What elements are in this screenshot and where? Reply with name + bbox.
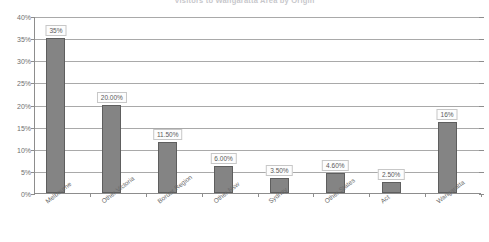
x-axis-category-label: Act bbox=[379, 193, 391, 204]
x-tick-mark bbox=[90, 194, 91, 197]
bar-value-label: 3.50% bbox=[266, 165, 292, 176]
bar-value-label: 16% bbox=[437, 109, 458, 120]
y-tick-mark-right bbox=[479, 83, 484, 84]
bar-chart: Visitors to Wangaratta Area by Origin 35… bbox=[0, 0, 489, 242]
x-tick-mark bbox=[425, 194, 426, 197]
y-axis-tick-label: 25% bbox=[1, 80, 31, 87]
gridline bbox=[34, 128, 481, 129]
bar-value-label: 6.00% bbox=[210, 153, 236, 164]
y-tick-mark-right bbox=[479, 61, 484, 62]
gridline bbox=[34, 83, 481, 84]
gridline bbox=[34, 106, 481, 107]
bar bbox=[102, 105, 121, 194]
y-tick-mark bbox=[31, 61, 35, 62]
y-axis-tick-label: 10% bbox=[1, 146, 31, 153]
x-tick-mark bbox=[481, 194, 482, 197]
y-tick-mark-right bbox=[479, 106, 484, 107]
bar-value-label: 4.60% bbox=[322, 160, 348, 171]
y-tick-mark bbox=[31, 194, 35, 195]
y-tick-mark-right bbox=[479, 39, 484, 40]
y-axis-tick-label: 0% bbox=[1, 191, 31, 198]
y-axis-tick-label: 35% bbox=[1, 36, 31, 43]
chart-title: Visitors to Wangaratta Area by Origin bbox=[0, 0, 489, 6]
y-tick-mark bbox=[31, 128, 35, 129]
x-tick-mark bbox=[313, 194, 314, 197]
bar-value-label: 20.00% bbox=[97, 92, 127, 103]
bar-value-label: 35% bbox=[45, 25, 66, 36]
y-tick-mark-right bbox=[479, 150, 484, 151]
y-axis-tick-label: 30% bbox=[1, 58, 31, 65]
x-tick-mark bbox=[146, 194, 147, 197]
bar-value-label: 2.50% bbox=[378, 169, 404, 180]
plot-area: 35%20.00%11.50%6.00%3.50%4.60%2.50%16% bbox=[34, 17, 481, 194]
y-axis-tick-label: 5% bbox=[1, 168, 31, 175]
bar bbox=[382, 182, 401, 193]
y-tick-mark bbox=[31, 17, 35, 18]
x-tick-mark bbox=[202, 194, 203, 197]
gridline bbox=[34, 172, 481, 173]
y-axis-tick-label: 15% bbox=[1, 124, 31, 131]
x-tick-mark bbox=[258, 194, 259, 197]
y-tick-mark-right bbox=[479, 128, 484, 129]
gridline bbox=[34, 150, 481, 151]
gridline bbox=[34, 61, 481, 62]
y-tick-mark-right bbox=[479, 172, 484, 173]
x-tick-mark bbox=[369, 194, 370, 197]
y-tick-mark bbox=[31, 172, 35, 173]
y-tick-mark bbox=[31, 150, 35, 151]
bar-value-label: 11.50% bbox=[153, 129, 183, 140]
y-axis-tick-label: 20% bbox=[1, 102, 31, 109]
y-tick-mark bbox=[31, 39, 35, 40]
y-tick-mark-right bbox=[479, 17, 484, 18]
bar bbox=[438, 122, 457, 193]
bar bbox=[46, 38, 65, 193]
y-tick-mark bbox=[31, 106, 35, 107]
y-axis-tick-label: 40% bbox=[1, 14, 31, 21]
gridline bbox=[34, 17, 481, 18]
y-tick-mark bbox=[31, 83, 35, 84]
gridline bbox=[34, 39, 481, 40]
